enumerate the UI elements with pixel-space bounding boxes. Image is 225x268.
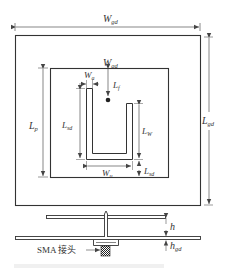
patch-length-dimension: Lp [28,68,48,177]
feed-point [106,98,111,103]
left-arm-length-dimension: Lsd [61,89,85,160]
outer-width-label: Wgd [103,13,119,25]
right-arm-length-dimension: LW [134,104,153,160]
sma-connector-label: SMA 接头 [37,244,76,255]
feed-offset-dimension: Lf [108,69,121,96]
feed-offset-label: Lf [112,80,121,91]
outer-width-dimension: Wgd [15,13,200,31]
ground-thickness-label: hgd [170,240,182,252]
slot-width-label: Wu [102,168,113,179]
patch-height-dimension: h [166,218,175,236]
antenna-diagram: Wgd Lgd Wgd Lp Wa Lf [0,0,225,268]
feed-probe [105,211,108,237]
outer-length-label: Lgd [201,115,215,127]
patch-height-label: h [170,221,175,232]
ground-thickness-dimension: hgd [166,240,182,252]
patch-width-label: Wgd [103,57,119,69]
slot-width-dimension: Wu [87,161,133,179]
bottom-gap-dimension: Lsd [139,161,155,177]
bottom-gap-label: Lsd [143,166,155,177]
arm-width-dimension: Wa [79,70,99,88]
arm-width-label: Wa [84,70,95,81]
sma-connector [101,246,110,256]
right-arm-length-label: LW [141,126,153,137]
outer-length-dimension: Lgd [201,37,215,205]
caption-cutoff [14,264,164,268]
